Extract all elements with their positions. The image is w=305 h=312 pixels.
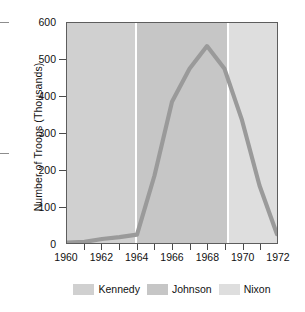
x-axis-minor-tick [119, 244, 120, 250]
x-axis-minor-tick [225, 244, 226, 250]
x-axis-tick-label: 1968 [187, 251, 227, 263]
x-axis-tick-label: 1970 [223, 251, 263, 263]
x-axis-minor-tick [260, 244, 261, 250]
legend-entry-nixon: Nixon [219, 283, 271, 295]
y-axis-tick-label: 200 [4, 164, 56, 176]
x-axis-tick-label: 1964 [117, 251, 157, 263]
legend-entry-johnson: Johnson [147, 283, 212, 295]
plot-area [66, 22, 278, 244]
x-axis-minor-tick [154, 244, 155, 250]
chart-legend: KennedyJohnsonNixon [66, 281, 278, 297]
chart-figure: Number of Troops (Thousands) 01002003004… [0, 0, 305, 312]
y-axis-tick-label: 0 [4, 238, 56, 250]
x-axis-minor-tick [190, 244, 191, 250]
legend-label: Johnson [172, 283, 212, 295]
y-axis-tick-label: 300 [4, 127, 56, 139]
x-axis-tick [137, 244, 138, 250]
y-axis-tick [59, 59, 66, 60]
x-axis-tick-label: 1966 [152, 251, 192, 263]
y-axis-tick [59, 133, 66, 134]
x-axis-tick-label: 1972 [258, 251, 298, 263]
y-axis-tick [59, 170, 66, 171]
y-axis-tick [59, 96, 66, 97]
y-axis-tick-label: 600 [4, 16, 56, 28]
x-axis-tick [207, 244, 208, 250]
legend-label: Nixon [244, 283, 271, 295]
page-edge-artifact-bottom [0, 153, 9, 154]
legend-swatch-nixon [219, 284, 240, 295]
y-axis-tick-label: 500 [4, 53, 56, 65]
x-axis-minor-tick [84, 244, 85, 250]
legend-swatch-johnson [147, 284, 168, 295]
y-axis-tick-label: 400 [4, 90, 56, 102]
x-axis-tick-label: 1960 [46, 251, 86, 263]
y-axis-tick-label: 100 [4, 201, 56, 213]
legend-label: Kennedy [98, 283, 139, 295]
series-polyline [67, 46, 277, 243]
x-axis-tick-label: 1962 [81, 251, 121, 263]
legend-swatch-kennedy [73, 284, 94, 295]
y-axis-tick [59, 207, 66, 208]
troops-line-series [67, 23, 277, 243]
x-axis-tick [243, 244, 244, 250]
x-axis-tick [101, 244, 102, 250]
legend-entry-kennedy: Kennedy [73, 283, 139, 295]
x-axis-tick [172, 244, 173, 250]
